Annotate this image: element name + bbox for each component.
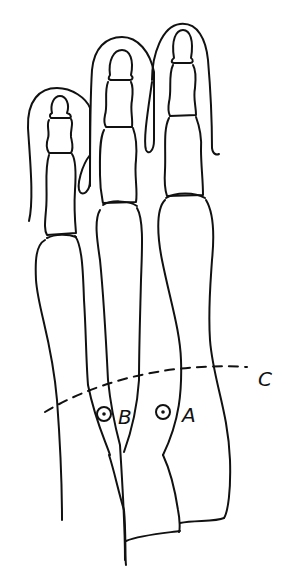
left-toe-bones (36, 96, 110, 520)
middle-middle-phalanx (104, 82, 132, 127)
label-a: A (180, 403, 196, 427)
right-proximal-phalanx (165, 117, 203, 196)
middle-toe-bones (97, 50, 143, 560)
left-distal-phalanx (50, 96, 71, 118)
right-metatarsal-right (206, 200, 230, 518)
base-lines (109, 455, 224, 565)
diagram-canvas: B A C (0, 0, 293, 576)
label-c: C (258, 367, 272, 391)
left-metatarsal (36, 240, 62, 520)
left-proximal-phalanx (45, 154, 76, 235)
marker-a (156, 405, 170, 419)
middle-proximal-phalanx (100, 128, 137, 203)
right-metatarsal-left (158, 200, 181, 455)
right-distal-phalanx (172, 30, 193, 63)
middle-metatarsal-left (97, 210, 125, 560)
middle-distal-phalanx (109, 50, 133, 80)
right-toe-bones (158, 30, 230, 518)
left-middle-phalanx (47, 119, 73, 153)
skin-outlines (28, 24, 219, 221)
marker-b (97, 407, 111, 421)
label-b: B (118, 405, 132, 429)
reference-line-c (45, 366, 247, 412)
foot-diagram: B A C (0, 0, 293, 576)
right-middle-phalanx (168, 65, 196, 116)
